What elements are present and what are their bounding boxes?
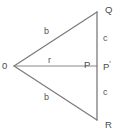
vertex-label-p: P bbox=[84, 60, 90, 69]
segment-label-q-p: c bbox=[103, 34, 108, 43]
segment-label-o-p: r bbox=[48, 56, 51, 65]
geometry-figure: 0 Q R P P′ b b r c c bbox=[0, 0, 124, 132]
vertex-label-o: 0 bbox=[2, 61, 7, 70]
segment-o-q bbox=[14, 12, 97, 66]
vertex-label-r: R bbox=[105, 120, 112, 129]
segment-label-p-r: c bbox=[103, 88, 108, 97]
segment-label-o-r: b bbox=[44, 93, 49, 102]
segment-o-r bbox=[14, 66, 97, 120]
vertex-label-p-prime: P′ bbox=[103, 59, 111, 71]
segment-label-o-q: b bbox=[44, 27, 49, 36]
prime-mark-icon: ′ bbox=[109, 59, 111, 68]
vertex-label-q: Q bbox=[105, 5, 112, 14]
